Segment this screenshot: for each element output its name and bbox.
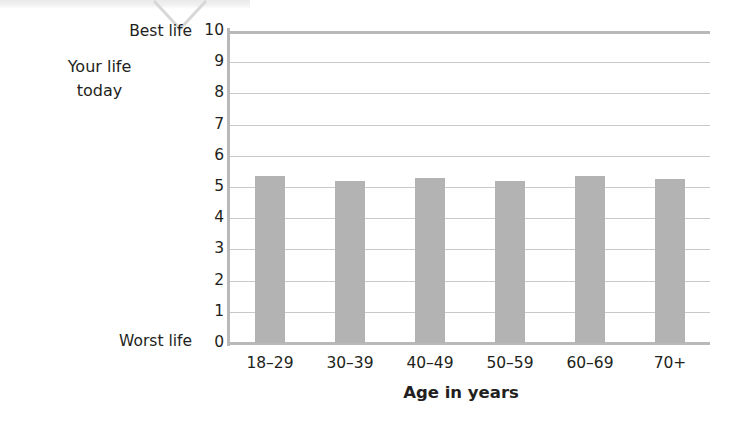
scan-artifact-band [0,0,250,9]
plot-wrapper: 109876543210 18–2930–3940–4950–5960–6970… [196,22,726,362]
gridline [230,93,710,94]
bar [415,178,445,343]
gridline [230,281,710,282]
y-axis-title-line2: today [12,79,187,103]
gridline [230,125,710,126]
y-tick-label: 0 [214,335,224,350]
y-tick-label: 10 [204,23,224,38]
gridline [230,218,710,219]
bar [575,176,605,343]
best-life-label: Best life [129,22,192,41]
x-axis-title: Age in years [196,383,726,402]
y-tick-label: 2 [214,273,224,288]
bar [495,181,525,343]
y-tick-label: 7 [214,117,224,132]
bar [335,181,365,343]
y-axis-title-line1: Your life [68,57,132,76]
chart-axes [230,22,726,352]
y-tick-label: 5 [214,179,224,194]
y-tick-label: 6 [214,148,224,163]
bar-chart-figure: Your life today Best life Worst life 109… [0,0,732,427]
gridline [230,249,710,250]
x-tick-label: 18–29 [233,354,307,372]
y-tick-label: 3 [214,241,224,256]
bar [255,176,285,343]
bar [655,179,685,343]
plot-area [230,31,710,343]
x-tick-label: 70+ [633,354,707,372]
gridline [230,31,710,34]
x-tick-label: 40–49 [393,354,467,372]
x-tick-label: 30–39 [313,354,387,372]
gridline [230,342,710,345]
gridline [230,156,710,157]
x-axis-tick-labels: 18–2930–3940–4950–5960–6970+ [230,352,726,376]
y-axis-title: Your life today [12,55,187,103]
worst-life-label: Worst life [119,332,192,351]
gridline [230,62,710,63]
gridline [230,187,710,188]
y-tick-label: 9 [214,54,224,69]
y-tick-label: 8 [214,85,224,100]
y-tick-label: 1 [214,304,224,319]
y-axis-tick-labels: 109876543210 [196,22,224,352]
x-tick-label: 60–69 [553,354,627,372]
x-tick-label: 50–59 [473,354,547,372]
y-tick-label: 4 [214,210,224,225]
gridline [230,312,710,313]
